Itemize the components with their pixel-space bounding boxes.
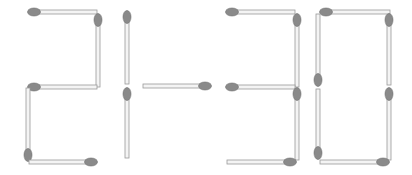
match-stick bbox=[387, 20, 391, 85]
match-stick bbox=[125, 17, 129, 84]
match-stick bbox=[232, 10, 295, 14]
match-head-icon bbox=[385, 88, 393, 101]
match-head-icon bbox=[85, 158, 98, 166]
match-stick bbox=[26, 88, 30, 155]
match-stick bbox=[143, 84, 205, 88]
match-head-icon bbox=[226, 83, 239, 91]
match-stick bbox=[326, 10, 390, 14]
match-head-icon bbox=[199, 82, 212, 90]
match-stick bbox=[387, 94, 391, 160]
match-head-icon bbox=[314, 147, 322, 160]
match-stick bbox=[232, 85, 295, 89]
matchstick-puzzle bbox=[0, 0, 412, 175]
match-head-icon bbox=[94, 14, 102, 27]
match-stick bbox=[96, 20, 100, 87]
match-head-icon bbox=[314, 74, 322, 87]
match-head-icon bbox=[284, 158, 297, 166]
match-head-icon bbox=[320, 8, 333, 16]
match-stick bbox=[34, 10, 97, 14]
match-stick bbox=[34, 85, 97, 89]
match-stick bbox=[125, 94, 129, 158]
match-head-icon bbox=[123, 11, 131, 24]
match-head-icon bbox=[377, 158, 390, 166]
match-head-icon bbox=[123, 88, 131, 101]
match-stick bbox=[295, 94, 299, 160]
match-head-icon bbox=[293, 14, 301, 27]
match-stick bbox=[295, 20, 299, 87]
match-head-icon bbox=[28, 8, 41, 16]
match-head-icon bbox=[293, 88, 301, 101]
match-stick bbox=[316, 14, 320, 80]
match-head-icon bbox=[24, 149, 32, 162]
match-stick bbox=[320, 160, 383, 164]
match-stick bbox=[227, 160, 290, 164]
match-head-icon bbox=[385, 14, 393, 27]
match-head-icon bbox=[226, 8, 239, 16]
match-stick bbox=[316, 89, 320, 153]
match-stick bbox=[29, 160, 91, 164]
